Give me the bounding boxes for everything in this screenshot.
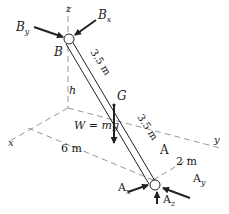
joint-a xyxy=(150,180,160,190)
coordinate-axes xyxy=(8,6,220,180)
point-g-label: G xyxy=(117,89,127,103)
joint-b xyxy=(64,34,74,44)
z-axis-label: z xyxy=(65,3,72,14)
diagram-canvas: z x y By Bx B h G W = mg 3.5 m 3.5 m 6 m… xyxy=(0,0,229,214)
x-axis-label: x xyxy=(8,137,14,148)
force-bx-arrow xyxy=(75,20,96,35)
force-by-label: By xyxy=(15,20,30,36)
force-ay-label: Ay xyxy=(192,172,206,187)
x-axis xyxy=(8,108,68,142)
point-a-label: A xyxy=(159,143,169,157)
y-axis-label: y xyxy=(213,134,220,145)
force-ax-label: Ax xyxy=(117,181,131,196)
dimension-2m-label: 2 m xyxy=(176,155,197,168)
dimension-6m-label: 6 m xyxy=(61,142,82,155)
force-az-label: Az xyxy=(162,193,176,208)
point-b-label: B xyxy=(53,45,63,59)
force-by-arrow xyxy=(34,27,63,37)
weight-label: W = mg xyxy=(74,119,119,132)
dimension-bg-label: 3.5 m xyxy=(88,47,113,77)
dimension-ga-label: 3.5 m xyxy=(135,112,160,142)
bar xyxy=(66,41,155,184)
x-projection-line xyxy=(28,128,153,180)
force-ax-arrow xyxy=(128,185,148,192)
height-h-label: h xyxy=(69,84,76,97)
force-bx-label: Bx xyxy=(97,8,112,24)
